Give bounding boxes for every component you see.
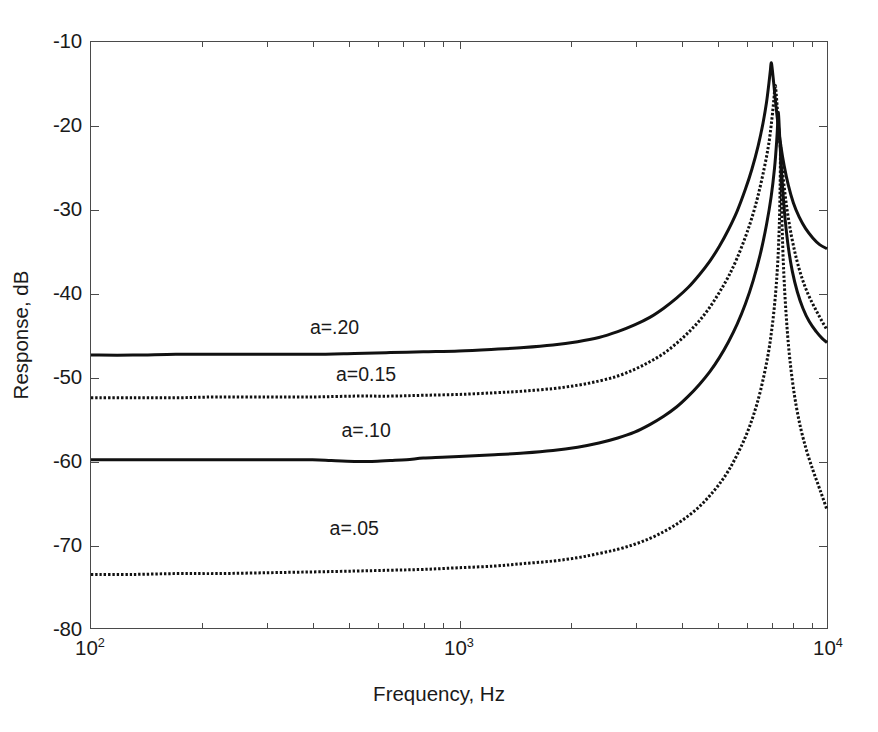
x-tick-mark-top-minor [571,42,572,47]
x-tick-mark-minor [793,623,794,628]
x-tick-mark-minor [403,623,404,628]
x-tick-mark-minor [772,623,773,628]
curve-annotation-label: a=.20 [310,315,359,338]
y-tick-mark-right [819,462,827,463]
x-tick-mark-top-minor [682,42,683,47]
y-tick-label: -40 [53,281,82,305]
y-tick-mark [91,294,99,295]
x-tick-mark-minor [202,623,203,628]
x-tick-mark-minor [424,623,425,628]
curves-svg [91,42,827,628]
x-tick-mark-top-minor [313,42,314,47]
x-tick-mark-top-minor [403,42,404,47]
x-tick-mark-major [460,621,461,628]
x-tick-mark-top-minor [443,42,444,47]
x-tick-label: 103 [444,636,474,660]
x-axis-tick-labels: 102103104 [90,636,828,676]
x-tick-mark-minor [747,623,748,628]
y-tick-label: -20 [53,113,82,137]
data-series-curve [91,112,827,461]
curve-annotation-label: a=.10 [341,418,390,441]
data-series-curve [91,63,827,355]
x-tick-mark-top-minor [424,42,425,47]
y-tick-mark [91,546,99,547]
y-tick-label: -30 [53,197,82,221]
curve-annotation-label: a=0.15 [336,363,396,386]
x-tick-label: 104 [813,636,843,660]
x-tick-mark-top-major [460,42,461,49]
y-tick-mark-right [819,378,827,379]
y-tick-mark-right [819,294,827,295]
y-tick-mark-right [819,210,827,211]
y-tick-mark-right [819,546,827,547]
x-tick-mark-top-minor [202,42,203,47]
x-tick-mark-minor [718,623,719,628]
x-tick-mark-top-minor [636,42,637,47]
x-tick-mark-minor [443,623,444,628]
x-tick-mark-top-minor [349,42,350,47]
y-tick-mark [91,126,99,127]
x-tick-mark-minor [571,623,572,628]
x-tick-mark-top-minor [772,42,773,47]
y-tick-label: -10 [53,29,82,53]
x-tick-mark-top-minor [793,42,794,47]
y-tick-mark-right [819,126,827,127]
x-axis-title: Frequency, Hz [0,682,878,706]
x-tick-mark-top-minor [378,42,379,47]
y-tick-mark [91,210,99,211]
x-tick-mark-minor [313,623,314,628]
x-tick-label: 102 [75,636,105,660]
curve-annotation-label: a=.05 [330,517,379,540]
x-tick-mark-top-minor [718,42,719,47]
x-tick-mark-minor [349,623,350,628]
y-tick-label: -70 [53,533,82,557]
figure-canvas: Response, dB -10-20-30-40-50-60-70-80 10… [0,0,878,732]
y-tick-label: -50 [53,365,82,389]
plot-area [90,41,828,629]
y-tick-mark [91,378,99,379]
y-tick-label: -60 [53,449,82,473]
x-tick-mark-top-minor [267,42,268,47]
x-tick-mark-top-minor [812,42,813,47]
x-tick-mark-minor [267,623,268,628]
y-tick-mark [91,462,99,463]
x-tick-mark-minor [378,623,379,628]
x-tick-mark-minor [636,623,637,628]
x-tick-mark-top-minor [747,42,748,47]
x-tick-mark-minor [812,623,813,628]
y-axis-tick-labels: -10-20-30-40-50-60-70-80 [0,41,82,629]
x-tick-mark-minor [682,623,683,628]
